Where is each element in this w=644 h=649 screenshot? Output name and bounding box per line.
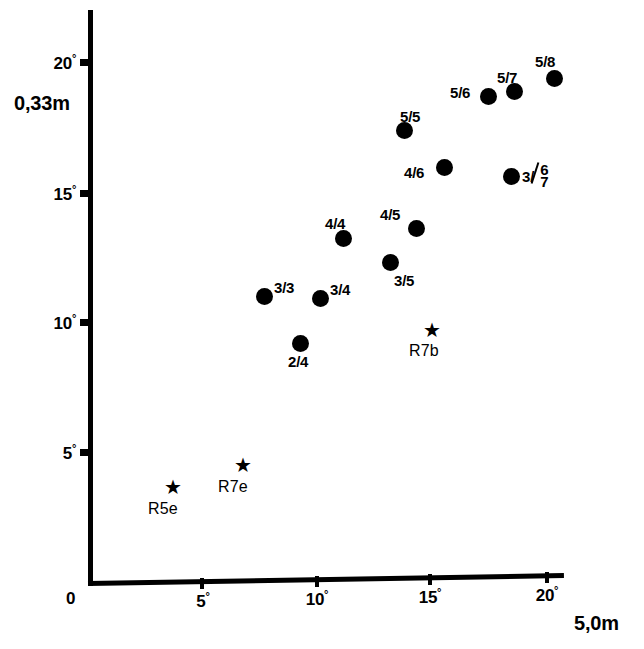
x-tick-value-10: 10 (306, 590, 324, 609)
data-point-marker (382, 254, 399, 271)
degree-symbol-icon: ° (554, 584, 558, 596)
y-tick-label-5: 5° (28, 442, 76, 464)
degree-symbol-icon: ° (324, 588, 328, 600)
data-point-label: 3/3 (274, 279, 294, 296)
data-point-marker (503, 168, 520, 185)
degree-symbol-icon: ° (206, 590, 210, 602)
data-point-marker (335, 230, 352, 247)
x-axis-title: 5,0m (574, 612, 619, 635)
data-point-label: 4/4 (325, 215, 345, 232)
data-point-marker (408, 220, 425, 237)
star-point-label: R7e (218, 478, 248, 496)
origin-tick-label: 0 (66, 589, 75, 609)
y-axis-line (88, 10, 93, 586)
y-tick-mark-5 (80, 449, 91, 456)
y-tick-value-10: 10 (54, 314, 72, 333)
y-tick-mark-10 (80, 319, 91, 326)
x-tick-value-5: 5 (196, 592, 205, 611)
data-point-marker (546, 70, 563, 87)
degree-symbol-icon: ° (437, 586, 441, 598)
x-tick-label-5: 5° (180, 590, 226, 612)
data-point-label: 5/6 (450, 84, 470, 101)
data-point-label: 5/7 (497, 69, 517, 86)
x-tick-label-15: 15° (407, 586, 453, 608)
x-tick-value-20: 20 (536, 586, 554, 605)
data-point-label: 5/8 (535, 53, 555, 70)
data-point-label: 3/5 (394, 272, 414, 289)
data-point-marker (312, 290, 329, 307)
data-point-label-fraction: 3/67 (522, 168, 554, 186)
stacked-fraction: 67 (534, 170, 554, 186)
data-point-marker (256, 288, 273, 305)
y-tick-mark-15 (80, 190, 91, 197)
scatter-plot-figure: 0,33m 5,0m 0 20° 15° 10° 5° 5° 10° 15° 2… (0, 0, 644, 649)
x-tick-mark-20 (545, 572, 549, 583)
y-tick-value-15: 15 (54, 185, 72, 204)
star-marker-icon: ★ (164, 478, 183, 497)
degree-symbol-icon: ° (72, 442, 76, 454)
x-tick-mark-5 (200, 578, 204, 589)
y-tick-mark-20 (80, 59, 91, 66)
x-axis-line (88, 573, 564, 586)
data-point-marker (480, 88, 497, 105)
y-tick-label-20: 20° (28, 52, 76, 74)
data-point-label: 4/5 (380, 206, 400, 223)
y-tick-value-20: 20 (54, 54, 72, 73)
y-tick-label-15: 15° (28, 183, 76, 205)
star-marker-icon: ★ (423, 321, 442, 340)
data-point-label: 4/6 (404, 164, 424, 181)
star-marker-icon: ★ (234, 456, 253, 475)
data-point-marker (292, 335, 309, 352)
data-point-label: 2/4 (288, 353, 308, 370)
data-point-label: 3/4 (330, 281, 350, 298)
x-tick-mark-10 (315, 576, 319, 587)
degree-symbol-icon: ° (72, 312, 76, 324)
degree-symbol-icon: ° (72, 52, 76, 64)
x-tick-label-20: 20° (524, 584, 570, 606)
degree-symbol-icon: ° (72, 183, 76, 195)
y-axis-title: 0,33m (14, 92, 70, 115)
data-point-label: 5/5 (400, 108, 420, 125)
star-point-label: R5e (148, 500, 178, 518)
x-tick-value-15: 15 (419, 588, 437, 607)
fraction-denominator: 7 (540, 173, 548, 190)
y-tick-value-5: 5 (63, 444, 72, 463)
y-tick-label-10: 10° (28, 312, 76, 334)
x-tick-mark-15 (428, 574, 432, 585)
data-point-marker (436, 159, 453, 176)
x-tick-label-10: 10° (294, 588, 340, 610)
star-point-label: R7b (409, 342, 439, 360)
